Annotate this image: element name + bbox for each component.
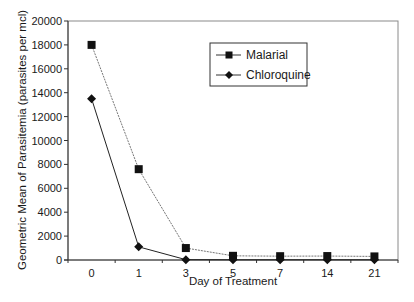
- square-marker-icon: [88, 41, 96, 49]
- legend: Malarial Chloroquine: [210, 43, 311, 86]
- series-chloroquine: [87, 94, 379, 264]
- square-marker-icon: [182, 244, 190, 252]
- y-tick-label: 6000: [38, 182, 62, 194]
- x-tick-label: 21: [368, 267, 380, 279]
- y-tick-label: 0: [56, 254, 62, 266]
- x-tick-label: 1: [136, 267, 142, 279]
- x-tick-label: 14: [321, 267, 333, 279]
- square-marker-icon: [135, 165, 143, 173]
- y-axis: 0200040006000800010000120001400016000180…: [31, 15, 68, 266]
- diamond-marker-icon: [181, 255, 190, 264]
- svg-text:Malarial: Malarial: [246, 48, 288, 62]
- x-tick-label: 7: [277, 267, 283, 279]
- parasitemia-line-chart: 0200040006000800010000120001400016000180…: [0, 0, 414, 302]
- y-tick-label: 12000: [31, 111, 62, 123]
- diamond-marker-icon: [134, 242, 143, 251]
- x-axis-title: Day of Treatment: [189, 275, 278, 287]
- y-tick-label: 4000: [38, 206, 62, 218]
- svg-text:Chloroquine: Chloroquine: [246, 68, 311, 82]
- y-tick-label: 8000: [38, 158, 62, 170]
- diamond-marker-icon: [87, 94, 96, 103]
- y-tick-label: 10000: [31, 135, 62, 147]
- x-tick-label: 0: [89, 267, 95, 279]
- y-tick-label: 14000: [31, 87, 62, 99]
- y-tick-label: 20000: [31, 15, 62, 27]
- y-axis-title: Geometric Mean of Parasitemia (parasites…: [16, 10, 28, 270]
- square-marker-icon: [226, 52, 233, 59]
- y-tick-label: 18000: [31, 39, 62, 51]
- y-tick-label: 2000: [38, 230, 62, 242]
- y-tick-label: 16000: [31, 63, 62, 75]
